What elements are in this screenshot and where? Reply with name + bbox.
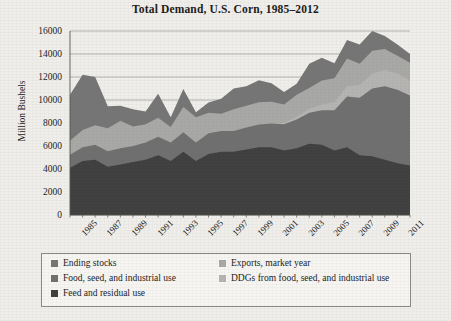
chart-figure: Total Demand, U.S. Corn, 1985–2012 Milli…: [0, 0, 451, 321]
legend-item-label: DDGs from food, seed, and industrial use: [231, 273, 389, 283]
legend-item-label: Food, seed, and industrial use: [63, 273, 176, 283]
legend-item[interactable]: Feed and residual use: [51, 288, 145, 298]
legend-swatch-icon: [219, 260, 226, 267]
legend-swatch-icon: [51, 290, 58, 297]
legend-item-label: Ending stocks: [63, 258, 117, 268]
legend-item[interactable]: Ending stocks: [51, 258, 117, 268]
legend-item[interactable]: DDGs from food, seed, and industrial use: [219, 273, 389, 283]
legend-swatch-icon: [219, 275, 226, 282]
legend-swatch-icon: [51, 275, 58, 282]
legend-item-label: Feed and residual use: [63, 288, 145, 298]
stacked-area-series: [70, 31, 410, 215]
legend-item[interactable]: Exports, market year: [219, 258, 310, 268]
legend-item-label: Exports, market year: [231, 258, 310, 268]
chart-legend: Ending stocksExports, market yearFood, s…: [41, 253, 411, 307]
legend-swatch-icon: [51, 260, 58, 267]
legend-item[interactable]: Food, seed, and industrial use: [51, 273, 176, 283]
